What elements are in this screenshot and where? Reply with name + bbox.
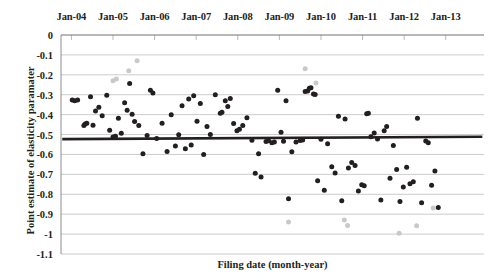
data-point [132,119,137,124]
data-point [313,80,318,85]
data-point [353,163,358,168]
data-point [160,121,165,126]
data-point [256,151,261,156]
data-point [100,113,105,118]
y-tick-label: -1.1 [36,249,53,260]
data-point [219,110,224,115]
y-tick-label: -0.2 [36,69,53,80]
data-point [346,165,351,170]
data-point [436,205,441,210]
data-point [325,141,330,146]
x-axis-tick-labels: Jan-04Jan-05Jan-06Jan-07Jan-08Jan-09Jan-… [61,11,484,29]
data-point [145,133,150,138]
elasticity-scatter-chart: Jan-04Jan-05Jan-06Jan-07Jan-08Jan-09Jan-… [0,0,502,280]
data-point [279,130,284,135]
data-point [286,219,291,224]
data-point [284,98,289,103]
data-point [372,130,377,135]
data-point [339,198,344,203]
data-point [253,171,258,176]
tick-marks [71,35,445,40]
data-point [88,94,93,99]
data-point [208,132,213,137]
x-tick-label: Jan-08 [223,11,253,22]
data-point [114,77,119,82]
data-point [329,164,334,169]
data-point [173,144,178,149]
data-point [186,97,191,102]
data-point [180,103,185,108]
data-point [116,116,121,121]
data-point [244,115,249,120]
data-point [286,196,291,201]
data-point [231,121,236,126]
plot-area [61,35,484,254]
data-point [259,174,264,179]
data-point [135,58,140,63]
data-point [127,81,132,86]
data-point [345,223,350,228]
data-point [189,143,194,148]
y-tick-label: -0.9 [36,209,53,220]
data-point [431,206,436,211]
data-point [195,119,200,124]
x-tick-label: Jan-05 [98,11,128,22]
data-points [70,58,441,236]
data-point [404,165,409,170]
y-tick-label: -0.5 [36,129,53,140]
y-tick-label: -0.4 [36,109,53,120]
data-point [432,168,437,173]
data-point [201,152,206,157]
data-point [362,183,367,188]
data-point [281,139,286,144]
data-point [394,167,399,172]
y-tick-label: -1 [44,229,53,240]
x-axis-title: Filing date (month-year) [61,259,484,270]
data-point [315,178,320,183]
x-tick-label: Jan-11 [348,11,377,22]
data-point [342,217,347,222]
data-point [191,93,196,98]
data-point [411,179,416,184]
data-point [366,111,371,116]
data-point [391,143,396,148]
data-point [384,124,389,129]
x-tick-label: Jan-12 [389,11,419,22]
x-tick-label: Jan-07 [181,11,211,22]
data-point [96,105,101,110]
data-point [122,100,127,105]
data-point [169,112,174,117]
data-point [104,93,109,98]
data-point [322,188,327,193]
x-tick-label: Jan-13 [431,11,461,22]
data-point [213,92,218,97]
data-point [426,140,431,145]
data-point [240,123,245,128]
data-point [401,184,406,189]
y-tick-label: -0.1 [36,49,53,60]
data-point [382,128,387,133]
data-point [126,68,131,73]
data-point [228,96,233,101]
mean-trend-line [62,137,482,139]
data-point [397,231,402,236]
data-point [388,176,393,181]
data-point [289,149,294,154]
data-point [119,131,124,136]
data-point [313,92,318,97]
y-tick-label: -0.8 [36,189,53,200]
data-point [204,124,209,129]
data-point [336,114,341,119]
data-point [275,88,280,93]
data-point [183,146,188,151]
data-point [75,98,80,103]
data-point [397,199,402,204]
data-point [414,223,419,228]
data-point [272,140,277,145]
data-point [343,117,348,122]
data-point [419,200,424,205]
data-point [308,85,313,90]
data-point [415,116,420,121]
trend-line [62,137,482,139]
plot-canvas [61,35,484,254]
